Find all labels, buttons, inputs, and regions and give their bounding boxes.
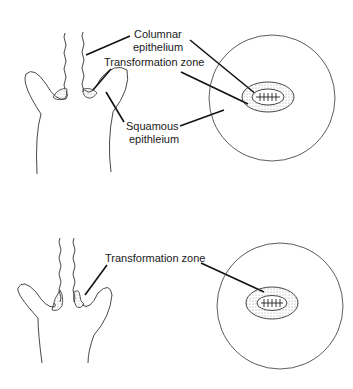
top-cervix-en-face-view	[209, 35, 335, 161]
bottom-cervix-en-face-view	[217, 243, 343, 369]
label-columnar-line1: Columnar	[134, 28, 182, 40]
label-squamous-line2: epithleium	[129, 133, 179, 145]
label-squamous-line1: Squamous	[126, 120, 179, 132]
top-labels: Columnar epithelium Transformation zone …	[104, 28, 204, 145]
label-transformation-zone-bottom: Transformation zone	[105, 252, 205, 264]
bottom-cervix-side-view	[18, 238, 112, 363]
label-columnar-line2: epithelium	[133, 41, 183, 53]
cervix-diagram: Columnar epithelium Transformation zone …	[0, 0, 353, 389]
bottom-labels: Transformation zone	[85, 252, 264, 295]
label-transformation-zone-top: Transformation zone	[104, 56, 204, 68]
